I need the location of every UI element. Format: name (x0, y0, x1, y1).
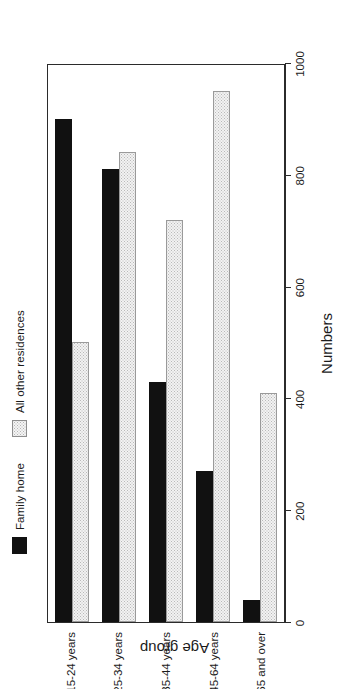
value-axis-tick (285, 622, 291, 623)
bar-all-other-residences (166, 220, 183, 622)
bar-family-home (243, 600, 260, 622)
legend-label-family-home: Family home (14, 463, 26, 530)
value-axis-tick (285, 510, 291, 511)
bar-group (48, 65, 95, 622)
legend-swatch-all-other-residences-icon (12, 420, 27, 437)
legend-swatch-family-home-icon (12, 537, 27, 554)
value-axis-tick (285, 63, 291, 64)
bar-family-home (196, 471, 213, 622)
bar-group (237, 65, 284, 622)
value-axis-tick-label: 1000 (294, 51, 306, 77)
category-tick-label: 45-64 years (190, 625, 238, 689)
bar-groups (48, 65, 284, 622)
plot-area (47, 64, 285, 623)
legend-label-all-other-residences: All other residences (14, 310, 26, 413)
category-axis-labels: 15-24 years25-34 years35-44 years45-64 y… (47, 625, 285, 689)
bar-all-other-residences (72, 343, 89, 623)
value-axis-tick-label: 200 (294, 502, 306, 521)
value-axis-line: 02004006008001000 (285, 64, 286, 623)
value-axis-tick (285, 175, 291, 176)
bar-group (142, 65, 189, 622)
value-axis-tick-label: 600 (294, 278, 306, 297)
value-axis-title: Numbers (318, 64, 335, 623)
category-axis-line (47, 622, 285, 623)
bar-group (190, 65, 237, 622)
bar-all-other-residences (260, 393, 277, 622)
bar-all-other-residences (119, 152, 136, 622)
legend-entry-all-other-residences: All other residences (12, 310, 27, 437)
bar-family-home (55, 119, 72, 622)
value-axis-tick-label: 800 (294, 166, 306, 185)
bar-chart: Family home All other residences 15-24 y… (0, 0, 348, 689)
category-axis-title: Age group (56, 640, 294, 657)
value-axis-tick (285, 287, 291, 288)
legend-entry-family-home: Family home (12, 463, 27, 554)
category-tick-label: 15-24 years (47, 625, 95, 689)
bar-family-home (102, 169, 119, 622)
bar-family-home (149, 382, 166, 622)
category-tick-label: 25-34 years (95, 625, 143, 689)
bar-group (95, 65, 142, 622)
value-axis-tick-label: 400 (294, 390, 306, 409)
value-axis-tick (285, 398, 291, 399)
rotated-chart-stage: Family home All other residences 15-24 y… (0, 0, 348, 689)
value-axis-tick-label: 0 (294, 620, 306, 626)
chart-legend: Family home All other residences (12, 310, 27, 554)
bar-all-other-residences (213, 91, 230, 622)
category-tick-label: 35-44 years (142, 625, 190, 689)
category-tick-label: 65 and over (237, 625, 285, 689)
